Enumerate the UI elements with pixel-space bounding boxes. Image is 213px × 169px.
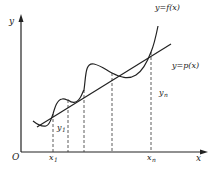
yn-label: y n (158, 88, 168, 98)
f-curve-label: y=f(x) (154, 3, 180, 12)
y1-label: y 1 (56, 123, 66, 133)
approximation-diagram: y O x y=f(x) y=p(x) x 1 x n y 1 y n (0, 0, 213, 169)
y-axis-arrow-icon (19, 14, 24, 22)
svg-text:n: n (152, 156, 156, 163)
svg-text:n: n (164, 91, 168, 98)
x1-label: x 1 (49, 153, 58, 163)
p-curve-label: y=p(x) (171, 61, 199, 70)
x-axis-label: x (196, 153, 201, 163)
xn-label: x n (147, 153, 156, 163)
svg-text:1: 1 (54, 156, 58, 163)
f-curve (33, 26, 158, 126)
y-axis-label: y (8, 16, 15, 26)
x-axis-arrow-icon (200, 150, 208, 155)
svg-text:1: 1 (62, 126, 66, 133)
origin-label: O (12, 152, 20, 162)
